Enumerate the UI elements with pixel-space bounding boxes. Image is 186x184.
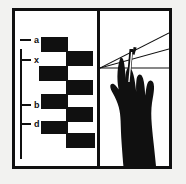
marker-label-b: b <box>34 100 40 110</box>
hand-illustration-art <box>100 11 169 166</box>
marker-label-x: x <box>34 55 39 65</box>
marker-tick-x <box>20 59 31 61</box>
marker-row-d: d <box>20 119 40 129</box>
figure-canvas: a x b d <box>0 0 186 184</box>
marker-tick-a <box>20 39 31 41</box>
hand-silhouette <box>110 57 156 166</box>
marker-tick-d <box>20 123 31 125</box>
band-lane1 <box>41 37 68 52</box>
marker-tick-b <box>20 104 31 106</box>
instrument-tip <box>132 47 136 55</box>
figure-frame: a x b d <box>12 8 172 169</box>
panel-left-band-ladder: a x b d <box>15 11 97 166</box>
band-lane1 <box>41 121 68 134</box>
band-lane1 <box>41 94 68 109</box>
band-lane2 <box>66 133 95 148</box>
marker-label-a: a <box>34 35 39 45</box>
marker-row-a: a <box>20 35 39 45</box>
band-lane2 <box>66 51 93 66</box>
band-lane2 <box>66 80 93 95</box>
marker-row-b: b <box>20 100 40 110</box>
panel-right-hand-illustration <box>100 11 169 166</box>
band-lane1 <box>39 66 68 81</box>
band-lane2 <box>66 107 93 122</box>
marker-label-d: d <box>34 119 40 129</box>
marker-row-x: x <box>20 55 39 65</box>
